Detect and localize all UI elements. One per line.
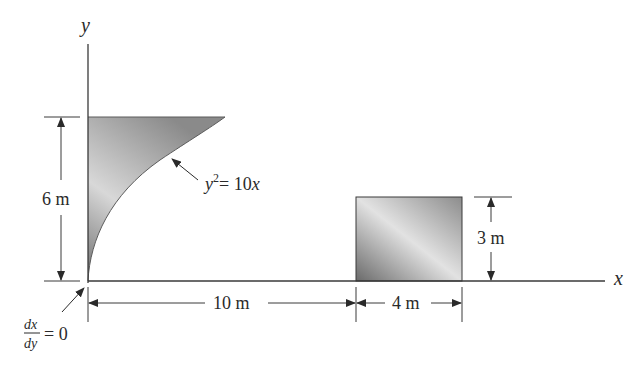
dim-10m-label: 10 m [213, 293, 250, 313]
x-axis-label: x [613, 267, 623, 289]
dim-6m-label: 6 m [42, 189, 70, 209]
dim-3m-label: 3 m [477, 228, 505, 248]
rectangle-area [356, 197, 462, 281]
curve-equation: y2= 10x [203, 171, 260, 194]
slope-value: = 0 [44, 324, 68, 344]
slope-leader [62, 288, 84, 312]
y-axis-label: y [79, 14, 90, 37]
equation-leader [172, 159, 198, 180]
diagram-canvas: y x 6 m y2= 10x dx dy = 0 10 m 4 m 3 m [0, 0, 635, 366]
slope-denominator: dy [24, 336, 38, 351]
slope-numerator: dx [24, 317, 38, 332]
dim-4m-label: 4 m [392, 293, 420, 313]
parabolic-area [88, 117, 225, 281]
